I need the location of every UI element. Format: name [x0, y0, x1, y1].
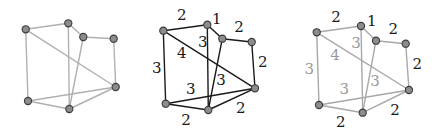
- edge-weight-label-B-C: 1: [367, 12, 377, 30]
- edge-weight-label-D-E: 2: [413, 55, 423, 73]
- node-B: [357, 22, 364, 29]
- edge-weight-label-A-E: 4: [330, 46, 340, 64]
- node-F: [162, 100, 169, 107]
- edge-A-F: [163, 31, 165, 104]
- node-A: [160, 27, 167, 34]
- node-D: [402, 40, 409, 47]
- node-B: [65, 20, 72, 27]
- edge-B-G: [361, 26, 363, 113]
- node-G: [66, 105, 73, 112]
- edge-F-G: [166, 104, 209, 110]
- edge-weight-label-F-G: 2: [336, 113, 346, 131]
- edge-F-G: [319, 105, 363, 113]
- graph-unweighted: [22, 20, 119, 113]
- edge-weight-label-B-G: 3: [351, 34, 361, 52]
- edge-weight-label-A-B: 2: [177, 6, 187, 24]
- edge-F-G: [28, 101, 69, 109]
- node-F: [315, 101, 322, 108]
- graph-weighted: 21234233322: [152, 6, 268, 129]
- edge-weight-label-G-E: 2: [390, 101, 400, 119]
- edge-A-B: [317, 26, 361, 32]
- node-E: [405, 86, 412, 93]
- edge-A-B: [26, 23, 69, 29]
- edge-weight-label-C-D: 2: [389, 20, 399, 38]
- node-B: [204, 21, 211, 28]
- node-G: [205, 106, 212, 113]
- edge-weight-label-B-C: 1: [212, 10, 222, 28]
- node-C: [219, 35, 226, 42]
- edge-weight-label-C-D: 2: [234, 18, 244, 36]
- edge-weight-label-B-G: 3: [198, 33, 208, 51]
- edge-weight-label-A-E: 4: [177, 44, 187, 62]
- edge-weight-label-C-G: 3: [370, 72, 380, 90]
- edge-weight-label-F-E: 3: [340, 80, 350, 98]
- edge-A-F: [317, 32, 319, 105]
- node-G: [359, 109, 366, 116]
- node-E: [112, 83, 119, 90]
- edge-B-G: [68, 23, 69, 109]
- node-D: [248, 38, 255, 45]
- node-D: [110, 35, 117, 42]
- node-A: [22, 26, 29, 33]
- node-C: [80, 33, 87, 40]
- edge-A-F: [26, 29, 28, 101]
- graph-weighted-highlight: 21234233322: [305, 8, 423, 131]
- edge-D-E: [114, 39, 116, 87]
- edge-weight-label-D-E: 2: [258, 53, 268, 71]
- edge-D-E: [252, 42, 255, 88]
- node-C: [372, 37, 379, 44]
- edge-weight-label-A-B: 2: [331, 8, 341, 26]
- edge-A-B: [163, 25, 207, 31]
- node-E: [251, 85, 258, 92]
- edge-C-D: [83, 37, 113, 39]
- edge-weight-label-F-G: 2: [181, 111, 191, 129]
- edge-D-E: [406, 44, 409, 90]
- edge-weight-label-F-E: 3: [186, 80, 196, 98]
- node-A: [313, 29, 320, 36]
- edge-weight-label-G-E: 2: [236, 99, 246, 117]
- edge-C-D: [376, 41, 406, 44]
- node-F: [24, 97, 31, 104]
- edge-C-G: [69, 37, 83, 109]
- edge-weight-label-A-F: 3: [152, 59, 162, 77]
- edge-C-D: [222, 39, 251, 42]
- graph-figure: 21234233322 21234233322: [0, 0, 440, 136]
- edge-weight-label-A-F: 3: [305, 60, 315, 78]
- edge-weight-label-C-G: 3: [216, 71, 226, 89]
- edge-G-E: [208, 88, 255, 110]
